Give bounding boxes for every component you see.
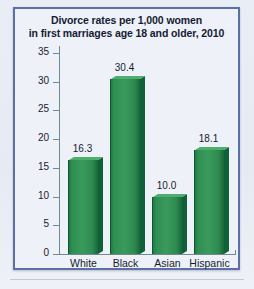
y-axis-tick bbox=[53, 139, 59, 140]
bar-side-face bbox=[98, 158, 103, 254]
bar-value-label: 10.0 bbox=[144, 180, 190, 191]
y-axis-tick bbox=[53, 110, 59, 111]
y-axis-tick-label: 0 bbox=[21, 247, 49, 258]
y-axis-tick-label: 20 bbox=[21, 132, 49, 143]
y-axis-tick bbox=[53, 225, 59, 226]
bar bbox=[194, 150, 224, 254]
bar-top-face bbox=[111, 76, 145, 79]
bar bbox=[152, 197, 182, 254]
x-axis-end-cap bbox=[235, 250, 236, 255]
bar-top-face bbox=[195, 147, 229, 150]
y-axis-tick bbox=[53, 53, 59, 54]
y-axis-tick-label: 30 bbox=[21, 75, 49, 86]
y-axis-tick-label: 35 bbox=[21, 46, 49, 57]
y-axis-tick-label: 5 bbox=[21, 218, 49, 229]
bar bbox=[110, 79, 140, 254]
bar-top-face bbox=[69, 157, 103, 160]
x-axis-category-label: Hispanic bbox=[182, 257, 238, 269]
bar-top-face bbox=[153, 194, 187, 197]
y-axis-tick bbox=[53, 168, 59, 169]
bar-side-face bbox=[140, 77, 145, 254]
y-axis-tick bbox=[53, 82, 59, 83]
bar-side-face bbox=[224, 147, 229, 254]
bar-side-face bbox=[182, 194, 187, 254]
x-axis-line bbox=[59, 254, 235, 255]
chart-panel: Divorce rates per 1,000 women in first m… bbox=[13, 7, 240, 270]
y-axis-tick-label: 15 bbox=[21, 161, 49, 172]
bar-value-label: 16.3 bbox=[60, 143, 106, 154]
page-background: Divorce rates per 1,000 women in first m… bbox=[0, 0, 254, 289]
bar bbox=[68, 160, 98, 254]
y-axis-tick bbox=[53, 254, 59, 255]
plot-area: 35302520151050 16.330.410.018.1 WhiteBla… bbox=[15, 9, 242, 268]
page-divider-rule bbox=[10, 279, 244, 280]
y-axis-tick bbox=[53, 197, 59, 198]
bar-value-label: 18.1 bbox=[186, 133, 232, 144]
bar-value-label: 30.4 bbox=[102, 62, 148, 73]
y-axis-tick-label: 10 bbox=[21, 190, 49, 201]
y-axis-tick-label: 25 bbox=[21, 103, 49, 114]
